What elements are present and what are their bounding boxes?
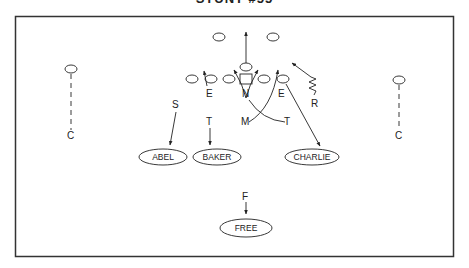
zone-label-free: FREE — [235, 223, 258, 233]
label-rover: R — [311, 98, 318, 109]
offense-back-left — [213, 33, 225, 41]
zone-label-charlie: CHARLIE — [294, 152, 331, 162]
label-left-tackle: T — [206, 116, 212, 127]
play-diagram: C C S E N E T M T R F ABEL BAKER CHARLIE… — [0, 0, 469, 268]
zone-label-baker: BAKER — [203, 152, 232, 162]
diagram-frame — [16, 17, 454, 257]
label-left-corner: C — [67, 130, 74, 141]
label-nose: N — [242, 88, 249, 99]
offense-center — [240, 74, 252, 84]
label-left-end: E — [206, 88, 213, 99]
offense-qb — [240, 63, 252, 71]
offense-lineman — [186, 75, 198, 83]
offense-back-right — [267, 33, 279, 41]
left-end-rush-arrow — [204, 71, 207, 86]
label-strong-safety: S — [172, 99, 179, 110]
label-right-end: E — [278, 88, 285, 99]
offense-wr-left — [65, 65, 77, 73]
rover-rush-arrow — [292, 63, 311, 77]
safety-drop-arrow — [170, 112, 176, 145]
rover-zigzag — [309, 77, 316, 95]
label-free-safety: F — [242, 191, 248, 202]
label-right-tackle: T — [284, 116, 290, 127]
zone-label-abel: ABEL — [152, 152, 174, 162]
offense-wr-right — [393, 76, 405, 84]
label-right-corner: C — [395, 130, 402, 141]
offense-lineman — [223, 75, 235, 83]
offense-lineman — [258, 75, 270, 83]
offense-lineman — [205, 75, 217, 83]
offense-lineman — [277, 75, 289, 83]
label-mike: M — [241, 116, 249, 127]
